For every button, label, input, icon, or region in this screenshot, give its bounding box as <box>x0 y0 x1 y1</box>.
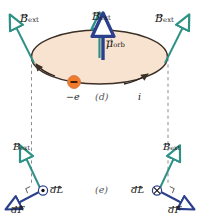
b-ext-label-bottom-right: Bext <box>163 142 180 152</box>
b-ext-arrow-bottom-right <box>159 158 174 190</box>
electron-particle <box>68 76 81 89</box>
physics-figure-magnetic-moment: Bext Bext Bext μorb −e (d) i Bext <box>0 0 197 221</box>
b-ext-label-top-center: Bext <box>92 11 111 22</box>
vector-arrow-overbar <box>20 13 28 18</box>
vector-arrow-overbar <box>163 142 170 146</box>
current-label: i <box>138 92 141 102</box>
vector-arrow-overbar <box>50 185 63 189</box>
vector-arrow-overbar <box>13 142 20 146</box>
df-label-bottom-right: dF <box>168 205 181 215</box>
electron-charge-label: −e <box>66 92 80 102</box>
right-angle-marker-right <box>170 187 174 194</box>
mu-orb-label: μorb <box>106 38 125 49</box>
df-arrow-bottom-right <box>159 191 182 203</box>
dl-label-bottom-right: dL <box>131 185 144 195</box>
df-arrow-bottom-left <box>18 191 41 203</box>
b-ext-arrow-top-left <box>16 27 34 63</box>
dl-into-page-symbol <box>152 186 161 195</box>
vector-arrow-overbar <box>92 11 100 16</box>
dl-out-of-page-symbol <box>38 186 47 195</box>
vector-arrow-overbar <box>106 38 113 43</box>
b-ext-arrow-top-right <box>165 27 183 63</box>
vector-arrow-overbar <box>168 205 181 209</box>
b-ext-label-top-left: Bext <box>20 13 39 24</box>
panel-label-d: (d) <box>95 92 109 102</box>
vector-arrow-overbar <box>131 185 144 189</box>
panel-label-e: (e) <box>95 185 108 195</box>
b-ext-label-top-right: Bext <box>155 13 174 24</box>
df-label-bottom-left: dF <box>11 205 24 215</box>
vector-arrow-overbar <box>155 13 163 18</box>
b-ext-arrow-bottom-left <box>26 158 41 190</box>
right-angle-marker-left <box>26 187 30 194</box>
vector-arrow-overbar <box>11 205 24 209</box>
dl-label-bottom-left: dL <box>50 185 63 195</box>
b-ext-label-bottom-left: Bext <box>13 142 30 152</box>
